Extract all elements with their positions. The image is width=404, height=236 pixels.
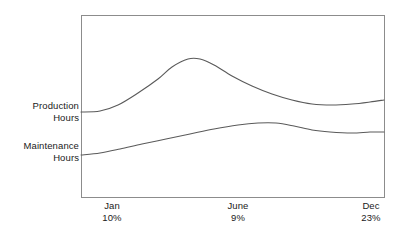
- series-label-maintenance-hours-line2: Hours: [24, 152, 80, 164]
- series-label-production-hours-line1: Production: [33, 100, 79, 111]
- x-axis-tick-dec-name: Dec: [341, 200, 401, 212]
- series-label-production-hours: Production Hours: [33, 100, 79, 124]
- plot-frame-border: [82, 16, 385, 198]
- x-axis-tick-jan-name: Jan: [82, 200, 142, 212]
- x-axis-tick-june: June 9%: [208, 200, 268, 224]
- x-axis-tick-june-percent: 9%: [208, 212, 268, 224]
- line-chart-figure: Production Hours Maintenance Hours Jan 1…: [0, 0, 404, 236]
- x-axis-tick-dec: Dec 23%: [341, 200, 401, 224]
- series-line-production-hours: [81, 58, 384, 112]
- x-axis-tick-jan: Jan 10%: [82, 200, 142, 224]
- x-axis-tick-dec-percent: 23%: [341, 212, 401, 224]
- series-label-maintenance-hours: Maintenance Hours: [24, 140, 80, 164]
- x-axis-tick-jan-percent: 10%: [82, 212, 142, 224]
- x-axis-tick-june-name: June: [208, 200, 268, 212]
- series-label-maintenance-hours-line1: Maintenance: [24, 140, 80, 151]
- series-line-maintenance-hours: [81, 123, 384, 155]
- series-label-production-hours-line2: Hours: [33, 112, 79, 124]
